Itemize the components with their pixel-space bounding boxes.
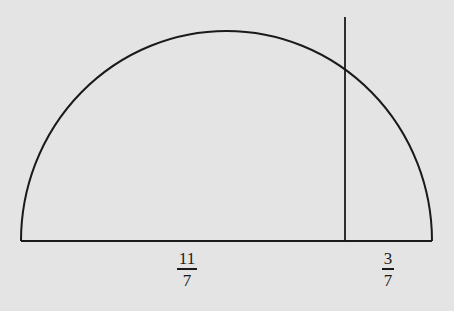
left-numerator: 11 bbox=[177, 250, 197, 267]
semicircle-arc bbox=[21, 31, 432, 241]
fraction-bar bbox=[177, 268, 197, 270]
left-denominator: 7 bbox=[177, 272, 197, 289]
right-numerator: 3 bbox=[382, 250, 394, 267]
right-denominator: 7 bbox=[382, 272, 394, 289]
left-segment-label: 11 7 bbox=[177, 250, 197, 289]
fraction-bar bbox=[382, 268, 394, 270]
right-segment-label: 3 7 bbox=[382, 250, 394, 289]
